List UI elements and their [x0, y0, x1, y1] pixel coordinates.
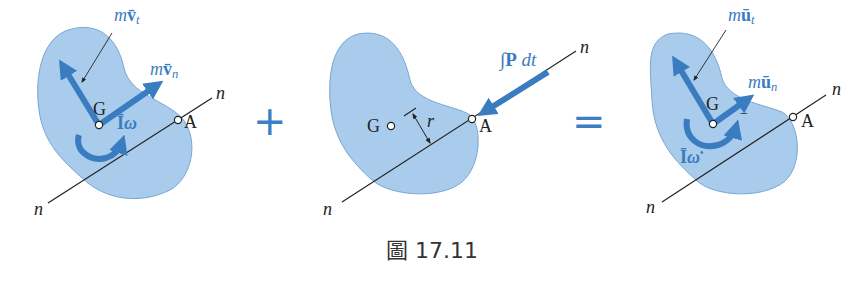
- label-mvn-v: v̄: [163, 59, 172, 79]
- label-mvt-m: m: [114, 5, 127, 25]
- label-n-bottom: n: [646, 198, 655, 216]
- label-n-top: n: [216, 84, 225, 102]
- plus-operator: +: [253, 101, 287, 141]
- label-impulse: ∫P dt: [500, 50, 536, 69]
- figure-caption: 圖 17.11: [0, 232, 864, 264]
- label-Iw-dot-sup: •: [700, 147, 704, 158]
- label-impulse-P: P: [505, 49, 517, 70]
- label-mun-sub: n: [771, 80, 777, 94]
- label-mun-m: m: [748, 72, 761, 92]
- panel-final-momenta: [650, 30, 826, 202]
- label-A: A: [184, 113, 197, 131]
- label-Iw: Īω: [117, 114, 137, 132]
- rigid-body-shape: [330, 33, 478, 194]
- label-G: G: [93, 100, 106, 118]
- label-n-bottom: n: [323, 200, 332, 218]
- point-G: [387, 122, 394, 129]
- label-G: G: [706, 95, 719, 113]
- point-G: [709, 120, 716, 127]
- label-n-bottom: n: [34, 200, 43, 218]
- label-mut-sub: t: [751, 13, 755, 27]
- point-A: [789, 113, 796, 120]
- label-mvn: mv̄n: [150, 60, 178, 81]
- label-mut-m: m: [728, 5, 741, 25]
- point-A: [468, 115, 475, 122]
- label-mvt-v: v̄: [127, 5, 136, 25]
- label-Iw-dot: Īω•: [680, 148, 704, 166]
- equals-operator: =: [572, 101, 606, 141]
- label-Iw-dot-w: ω: [687, 147, 700, 167]
- label-mut-u: ū: [741, 5, 751, 25]
- label-r: r: [427, 112, 434, 130]
- vector-impulse: [484, 72, 548, 112]
- label-dash: −: [740, 107, 748, 121]
- label-G: G: [367, 117, 380, 135]
- label-Iw-w: ω: [124, 113, 137, 133]
- point-G: [95, 121, 102, 128]
- label-impulse-dt: dt: [522, 49, 537, 70]
- label-mun-u: ū: [761, 72, 771, 92]
- label-A: A: [479, 117, 492, 135]
- label-mvt-sub: t: [136, 13, 140, 27]
- label-mun: mūn: [748, 73, 777, 94]
- label-Iw-dot-I: Ī: [680, 147, 687, 167]
- label-n-top: n: [832, 80, 841, 98]
- label-mvt: mv̄t: [114, 6, 140, 27]
- point-A: [174, 116, 181, 123]
- label-mvn-m: m: [150, 59, 163, 79]
- label-A: A: [801, 112, 814, 130]
- label-Iw-I: Ī: [117, 113, 124, 133]
- label-n-top: n: [580, 38, 589, 56]
- label-mut: mūt: [728, 6, 755, 27]
- label-mvn-sub: n: [172, 67, 178, 81]
